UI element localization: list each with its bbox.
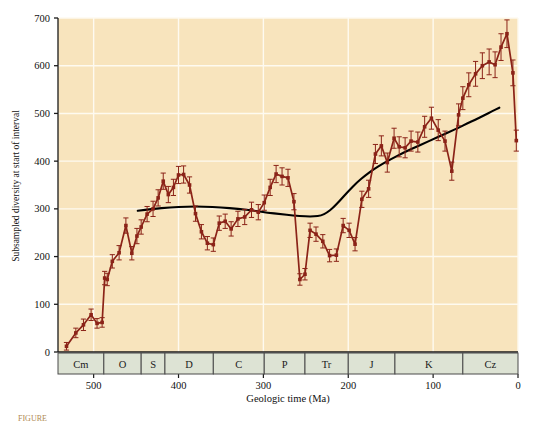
diversity-chart: 0100200300400500600700 5004003002001000 … bbox=[0, 0, 540, 423]
data-point-marker bbox=[280, 175, 284, 179]
data-point-marker bbox=[217, 221, 221, 225]
data-point-marker bbox=[111, 260, 115, 264]
data-point-marker bbox=[360, 198, 364, 202]
data-point-marker bbox=[151, 207, 155, 211]
figure-container: 0100200300400500600700 5004003002001000 … bbox=[0, 0, 540, 423]
period-band-label: Cm bbox=[73, 359, 88, 370]
x-tick-label: 300 bbox=[256, 380, 272, 391]
data-point-marker bbox=[188, 183, 192, 187]
data-point-marker bbox=[314, 232, 318, 236]
period-band-label: Tr bbox=[322, 359, 332, 370]
data-point-marker bbox=[321, 240, 325, 244]
data-point-marker bbox=[499, 45, 503, 49]
period-band-label: S bbox=[150, 359, 156, 370]
data-point-marker bbox=[139, 225, 143, 229]
data-point-marker bbox=[177, 173, 181, 177]
data-point-marker bbox=[335, 253, 339, 257]
data-point-marker bbox=[443, 139, 447, 143]
data-point-marker bbox=[403, 146, 407, 150]
data-point-marker bbox=[298, 278, 302, 282]
x-tick-label: 500 bbox=[86, 380, 102, 391]
data-point-marker bbox=[229, 227, 233, 231]
y-axis-label: Subsampled diversity at start of interva… bbox=[11, 110, 21, 262]
data-point-marker bbox=[474, 72, 478, 76]
data-point-marker bbox=[117, 251, 121, 255]
data-point-marker bbox=[515, 139, 519, 143]
data-point-marker bbox=[436, 128, 440, 132]
data-point-marker bbox=[156, 196, 160, 200]
data-point-marker bbox=[303, 272, 307, 276]
data-point-marker bbox=[487, 60, 491, 64]
data-point-marker bbox=[256, 210, 260, 214]
data-point-marker bbox=[416, 140, 420, 144]
period-band-label: Cz bbox=[485, 359, 497, 370]
data-point-marker bbox=[130, 251, 134, 255]
data-point-marker bbox=[262, 201, 266, 205]
data-point-marker bbox=[461, 96, 465, 100]
x-tick-label: 0 bbox=[515, 380, 520, 391]
data-point-marker bbox=[292, 200, 296, 204]
data-point-marker bbox=[385, 161, 389, 165]
data-point-marker bbox=[200, 230, 204, 234]
y-tick-label: 200 bbox=[34, 251, 50, 262]
x-tick-label: 200 bbox=[340, 380, 356, 391]
data-point-marker bbox=[347, 229, 351, 233]
data-point-marker bbox=[380, 144, 384, 148]
data-point-marker bbox=[374, 152, 378, 156]
data-point-marker bbox=[212, 243, 216, 247]
period-band-label: K bbox=[425, 359, 433, 370]
data-point-marker bbox=[511, 71, 515, 75]
period-band-label: O bbox=[119, 359, 127, 370]
data-point-marker bbox=[135, 234, 139, 238]
data-point-marker bbox=[481, 64, 485, 68]
data-point-marker bbox=[182, 173, 186, 177]
data-point-marker bbox=[95, 322, 99, 326]
figure-caption: FIGURE bbox=[18, 414, 47, 423]
data-point-marker bbox=[423, 125, 427, 129]
data-point-marker bbox=[124, 224, 128, 228]
x-tick-label: 100 bbox=[425, 380, 441, 391]
data-point-marker bbox=[74, 331, 78, 335]
data-point-marker bbox=[409, 139, 413, 143]
data-point-marker bbox=[82, 323, 86, 327]
data-point-marker bbox=[308, 229, 312, 233]
data-point-marker bbox=[145, 212, 149, 216]
data-point-marker bbox=[274, 172, 278, 176]
data-point-marker bbox=[467, 83, 471, 87]
data-point-marker bbox=[65, 344, 69, 348]
data-point-marker bbox=[89, 313, 93, 317]
period-band-label: P bbox=[282, 359, 288, 370]
period-band-label: D bbox=[185, 359, 193, 370]
data-point-marker bbox=[493, 63, 497, 67]
y-tick-label: 100 bbox=[34, 299, 50, 310]
data-point-marker bbox=[457, 113, 461, 117]
data-point-marker bbox=[100, 321, 104, 325]
data-point-marker bbox=[397, 145, 401, 149]
data-point-marker bbox=[250, 208, 254, 212]
data-point-marker bbox=[236, 217, 240, 221]
y-tick-label: 400 bbox=[34, 156, 50, 167]
data-point-marker bbox=[367, 187, 371, 191]
y-tick-label: 300 bbox=[34, 203, 50, 214]
period-band-label: C bbox=[235, 359, 242, 370]
data-point-marker bbox=[505, 32, 509, 36]
data-point-marker bbox=[268, 186, 272, 190]
y-tick-label: 0 bbox=[45, 347, 50, 358]
data-point-marker bbox=[167, 193, 171, 197]
data-point-marker bbox=[105, 278, 109, 282]
data-point-marker bbox=[223, 219, 227, 223]
data-point-marker bbox=[206, 241, 210, 245]
x-tick-label: 400 bbox=[171, 380, 187, 391]
y-tick-label: 600 bbox=[34, 60, 50, 71]
data-point-marker bbox=[392, 136, 396, 140]
data-point-marker bbox=[353, 242, 357, 246]
data-point-marker bbox=[243, 215, 247, 219]
period-band-label: J bbox=[370, 359, 374, 370]
geologic-period-bar: CmOSDCPTrJKCz bbox=[58, 353, 518, 374]
data-point-marker bbox=[450, 169, 454, 173]
x-axis-label: Geologic time (Ma) bbox=[246, 393, 330, 405]
data-point-marker bbox=[430, 116, 434, 120]
data-point-marker bbox=[286, 176, 290, 180]
y-tick-label: 700 bbox=[34, 13, 50, 24]
data-point-marker bbox=[194, 212, 198, 216]
